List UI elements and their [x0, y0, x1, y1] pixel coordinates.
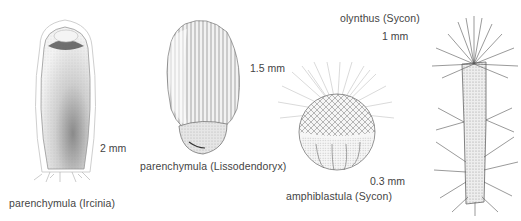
- sycon-amphiblastula-illustration: [272, 62, 402, 182]
- lissodendoryx-caption: parenchymula (Lissodendoryx): [140, 160, 286, 172]
- ircinia-parenchymula-illustration: [20, 14, 110, 184]
- olynthus-scale-label: 1 mm: [382, 30, 408, 42]
- olynthus-caption: olynthus (Sycon): [340, 12, 420, 24]
- amphiblastula-scale-label: 0.3 mm: [370, 175, 405, 187]
- ircinia-scale-label: 2 mm: [100, 142, 126, 154]
- lissodendoryx-parenchymula-illustration: [157, 14, 247, 159]
- ircinia-caption: parenchymula (Ircinia): [9, 197, 115, 209]
- amphiblastula-caption: amphiblastula (Sycon): [286, 190, 392, 202]
- sycon-olynthus-illustration: [430, 12, 520, 217]
